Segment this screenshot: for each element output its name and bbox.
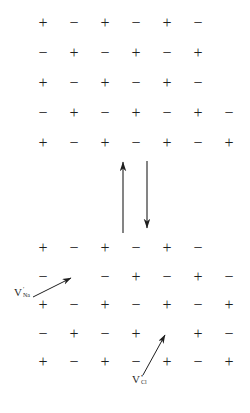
arrow-layer <box>0 0 250 413</box>
na-vacancy-arrow <box>33 278 71 297</box>
cl-vacancy-arrow <box>143 335 165 375</box>
cl-vacancy-label: V•Cl <box>132 374 147 385</box>
schottky-defect-diagram: +−+−+−−+−+−++−+−+−−+−+−+−+−+−+−+ +−+−+−−… <box>0 0 250 413</box>
na-vacancy-site-subscript: Na <box>23 293 30 298</box>
na-vacancy-symbol: V <box>14 287 22 297</box>
cl-vacancy-symbol: V <box>132 374 140 384</box>
cl-vacancy-site-subscript: Cl <box>141 380 147 385</box>
na-vacancy-label: V′Na <box>14 287 30 298</box>
